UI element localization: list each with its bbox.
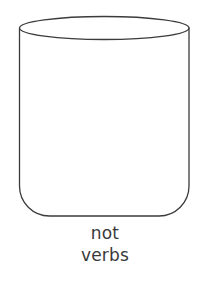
cylinder-body-outline	[20, 28, 190, 216]
caption-line-1: not	[91, 223, 120, 243]
caption-line-2: verbs	[81, 245, 129, 265]
figure-canvas: not verbs	[0, 0, 205, 283]
cylinder-top-rim-ellipse	[20, 17, 190, 40]
cylinder-figure: not verbs	[0, 0, 205, 283]
